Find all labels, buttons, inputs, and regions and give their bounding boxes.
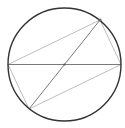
chord-c-d [8,65,29,110]
chord-a-b [100,20,121,65]
geometry-diagram [0,0,125,128]
center-point [63,63,65,65]
point-a [98,18,101,21]
